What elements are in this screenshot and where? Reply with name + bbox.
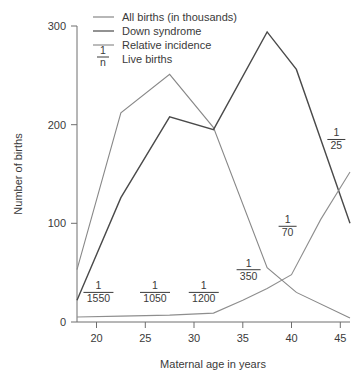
- fraction-numerator: 1: [333, 126, 339, 138]
- fraction-denominator: 70: [282, 226, 294, 238]
- legend-label-down-syndrome: Down syndrome: [122, 25, 201, 37]
- y-tick-label-100: 100: [48, 217, 66, 229]
- x-tick-label-40: 40: [285, 332, 297, 344]
- legend-swatch-live-births-fraction: 1 n: [97, 44, 109, 68]
- chart-figure: 300 200 100 0 20 25 30 35 40 45 Maternal…: [0, 0, 359, 378]
- annotation-fraction-1-over-1550: 11550: [83, 279, 113, 304]
- fraction-numerator: 1: [201, 279, 207, 291]
- annotation-fraction-1-over-25: 125: [327, 126, 345, 151]
- fraction-numerator: 1: [285, 213, 291, 225]
- y-tick-label-0: 0: [60, 316, 66, 328]
- annotation-fraction-1-over-1200: 11200: [189, 279, 219, 304]
- axes-group: [71, 26, 350, 328]
- x-axis-title: Maternal age in years: [160, 358, 266, 370]
- fraction-denominator: 350: [240, 270, 258, 282]
- fraction-numerator: 1: [152, 279, 158, 291]
- x-tick-label-45: 45: [334, 332, 346, 344]
- y-tick-label-300: 300: [48, 20, 66, 32]
- series-line-down-syndrome: [77, 32, 350, 300]
- annotation-fraction-1-over-350: 1350: [237, 257, 261, 282]
- line-chart: 300 200 100 0 20 25 30 35 40 45 Maternal…: [0, 0, 359, 378]
- legend-label-live-births: Live births: [122, 53, 173, 65]
- fraction-numerator: 1: [246, 257, 252, 269]
- x-tick-label-25: 25: [139, 332, 151, 344]
- y-tick-label-200: 200: [48, 119, 66, 131]
- x-tick-label-20: 20: [90, 332, 102, 344]
- legend-label-relative-incidence: Relative incidence: [122, 39, 211, 51]
- fraction-numerator: 1: [96, 279, 102, 291]
- x-tick-label-30: 30: [188, 332, 200, 344]
- y-axis-title: Number of births: [12, 133, 24, 215]
- fraction-denominator: 1050: [143, 292, 167, 304]
- annotation-fraction-1-over-70: 170: [279, 213, 297, 238]
- legend-label-all-births: All births (in thousands): [122, 11, 237, 23]
- annotation-fraction-1-over-1050: 11050: [140, 279, 170, 304]
- x-tick-label-35: 35: [237, 332, 249, 344]
- chart-legend: All births (in thousands) Down syndrome …: [93, 11, 237, 68]
- fraction-denominator: 1200: [192, 292, 216, 304]
- annotation-layer: 1155011050112001350170125: [83, 126, 345, 304]
- series-layer: [77, 32, 350, 318]
- series-line-all-births-in-thousands: [77, 74, 350, 318]
- legend-fraction-numerator: 1: [100, 44, 106, 56]
- fraction-denominator: 1550: [87, 292, 111, 304]
- legend-fraction-denominator: n: [100, 56, 106, 68]
- fraction-denominator: 25: [331, 139, 343, 151]
